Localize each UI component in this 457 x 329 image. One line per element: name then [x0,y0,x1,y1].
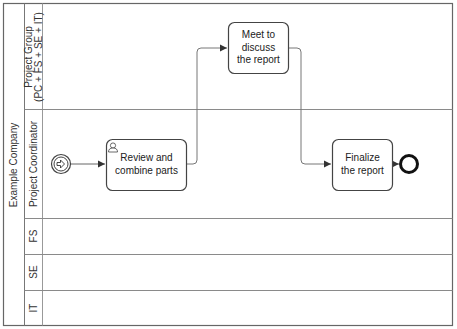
end-event[interactable] [401,156,418,173]
task-label: Finalize [345,152,380,163]
lane-label: SE [28,265,39,279]
start-event[interactable] [52,155,71,174]
lane-project-coordinator[interactable]: Project Coordinator [28,120,39,207]
task-label: Meet to [242,29,276,40]
task-label: combine parts [115,165,178,176]
task-finalize-the-report[interactable]: Finalize the report [333,140,393,191]
task-label: the report [341,165,384,176]
lane-se[interactable]: SE [28,265,39,279]
task-meet-to-discuss-the-report[interactable]: Meet to discuss the report [229,23,289,74]
lane-label: FS [28,229,39,242]
task-label: the report [237,54,280,65]
lane-fs[interactable]: FS [28,229,39,242]
task-label: discuss [242,42,275,53]
lane-label: (PC + FS + SE + IT) [33,12,44,102]
lane-label: Project Coordinator [28,120,39,207]
lane-it[interactable]: IT [28,304,39,313]
pool-label: Example Company [8,123,19,207]
bpmn-diagram: Example Company Project Group (PC + FS +… [0,0,457,329]
task-label: Review and [120,152,172,163]
lane-label: IT [28,304,39,313]
task-review-and-combine-parts[interactable]: Review and combine parts [107,140,187,191]
